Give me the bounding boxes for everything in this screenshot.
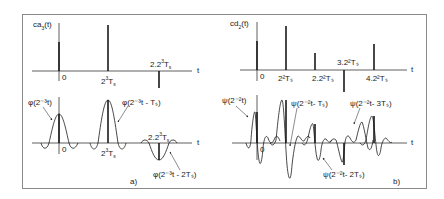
panel-b-caption: b) <box>393 178 400 186</box>
b-top-tick-0: 0 <box>260 73 264 81</box>
panel-a-caption: a) <box>130 178 137 186</box>
a-bottom-tick-1: 23Ts <box>101 148 116 159</box>
b-bottom-axis-t: t <box>411 139 413 147</box>
ca3-label: ca3(t) <box>33 21 52 31</box>
b-top-tick-4: 4.2²Tₛ <box>366 75 388 83</box>
b-top-tick-1: 2²Tₛ <box>278 75 293 83</box>
psi-3-curve <box>330 122 373 162</box>
psi-4-curve <box>360 116 392 155</box>
b-top-tick-2: 2.2²Tₛ <box>312 75 334 83</box>
a-bottom-axis-t: t <box>197 139 199 147</box>
psi-3-label: ψ(2⁻²t- 3Tₛ) <box>350 100 392 108</box>
a-top-tick-2: 2.23Ts <box>150 59 171 70</box>
a-top-tick-1: 23Ts <box>101 76 116 87</box>
a-top-tick-0: 0 <box>62 74 66 82</box>
phi-1-label: φ(2⁻³t - Tₛ) <box>122 99 161 107</box>
psi-2-curve <box>302 124 332 161</box>
b-bottom-tick-0: 0 <box>260 146 264 154</box>
a-top-axis-t: t <box>197 67 199 75</box>
b-top-tick-3: 3.2²Tₛ <box>337 59 359 67</box>
psi-1-curve <box>270 100 310 178</box>
a-bottom-tick-2: 2.23Ts <box>148 132 169 143</box>
phi-2-label: φ(2⁻³t - 2Tₛ) <box>153 171 196 179</box>
psi-0-curve <box>246 112 280 164</box>
phi-0-label: φ(2⁻³t) <box>28 99 52 107</box>
psi-2-label: ψ(2⁻²t- 2Tₛ) <box>323 171 365 179</box>
psi-1-label: ψ(2⁻²t- Tₛ) <box>291 100 328 108</box>
cd2-label: cd2(t) <box>230 20 249 30</box>
a-bottom-tick-0: 0 <box>62 146 66 154</box>
b-top-axis-t: t <box>411 66 413 74</box>
psi-0-label: ψ(2⁻²t) <box>222 97 246 105</box>
